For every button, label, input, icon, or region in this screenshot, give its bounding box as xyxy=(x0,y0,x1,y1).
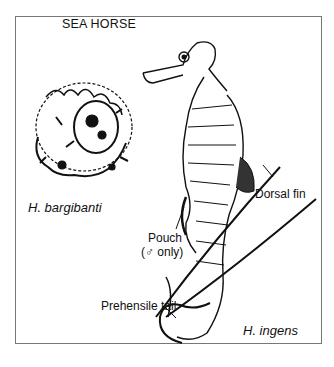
figure-title: SEA HORSE xyxy=(62,18,136,31)
seahorse-illustration xyxy=(16,17,323,345)
label-prehensile-tail: Prehensile tail xyxy=(101,300,176,313)
label-dorsal-fin: Dorsal fin xyxy=(255,188,306,201)
bargibanti-drawing xyxy=(36,83,132,176)
figure-frame xyxy=(15,16,322,344)
label-h-bargibanti: H. bargibanti xyxy=(28,201,102,214)
label-pouch-male-only: (♂ only) xyxy=(141,246,183,259)
label-pouch: Pouch xyxy=(148,232,182,245)
label-h-ingens: H. ingens xyxy=(243,324,298,337)
